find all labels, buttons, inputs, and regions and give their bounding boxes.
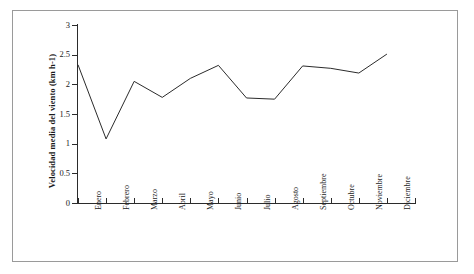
y-tick-label: 1.5: [40, 110, 70, 119]
y-tick-label: 3: [40, 21, 70, 30]
chart-figure: Velocidad media del viento (km h-1) 00.5…: [0, 0, 474, 274]
y-tick-label: 0: [40, 199, 70, 208]
y-tick-mark: [72, 144, 78, 145]
x-tick-label: Noviembre: [376, 174, 384, 210]
y-tick-mark: [72, 173, 78, 174]
x-tick-mark: [415, 198, 416, 204]
x-tick-label: Agosto: [292, 187, 300, 210]
x-tick-label: Mayo: [207, 191, 215, 210]
x-tick-label: Febrero: [123, 185, 131, 210]
x-tick-label: Marzo: [151, 189, 159, 210]
x-tick-label: Julio: [264, 194, 272, 210]
x-tick-label: Abril: [179, 193, 187, 210]
x-tick-mark: [190, 198, 191, 204]
x-tick-mark: [387, 198, 388, 204]
x-tick-mark: [78, 198, 79, 204]
y-tick-mark: [72, 114, 78, 115]
y-tick-label: 2.5: [40, 50, 70, 59]
y-axis-title: Velocidad media del viento (km h-1): [47, 36, 57, 206]
x-tick-mark: [218, 198, 219, 204]
y-tick-label: 0.5: [40, 169, 70, 178]
x-tick-mark: [247, 198, 248, 204]
figure-border: [12, 10, 458, 262]
y-tick-mark: [72, 25, 78, 26]
x-tick-mark: [303, 198, 304, 204]
x-tick-label: Octubre: [348, 184, 356, 210]
x-tick-label: Junio: [235, 193, 243, 210]
x-tick-label: Diciembre: [404, 176, 412, 210]
y-tick-mark: [72, 84, 78, 85]
x-tick-mark: [134, 198, 135, 204]
y-tick-mark: [72, 55, 78, 56]
x-tick-mark: [331, 198, 332, 204]
y-tick-label: 2: [40, 80, 70, 89]
x-tick-mark: [162, 198, 163, 204]
x-tick-label: Septiembre: [320, 174, 328, 210]
x-tick-mark: [106, 198, 107, 204]
x-tick-label: Enero: [95, 191, 103, 210]
x-tick-mark: [275, 198, 276, 204]
y-tick-label: 1: [40, 139, 70, 148]
x-tick-mark: [359, 198, 360, 204]
